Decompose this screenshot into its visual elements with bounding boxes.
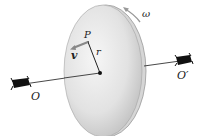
axle-right — [144, 61, 180, 66]
label-o-prime: O′ — [177, 70, 189, 81]
label-p: P — [84, 30, 91, 40]
label-r: r — [96, 47, 101, 57]
rotating-disk-diagram — [0, 0, 202, 136]
label-o: O — [31, 91, 40, 102]
center-dot — [98, 71, 102, 75]
bearing-left-icon — [11, 76, 31, 90]
label-v: v — [71, 50, 77, 61]
disk-face — [64, 5, 142, 136]
bearing-right-icon — [175, 53, 193, 66]
label-omega: ω — [142, 9, 150, 19]
